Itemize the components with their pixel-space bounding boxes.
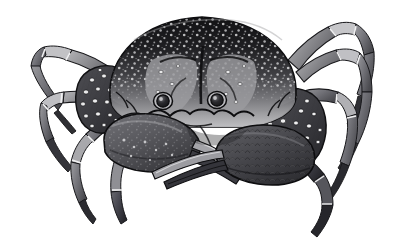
left-eye-highlight <box>159 97 163 101</box>
crab-illustration <box>0 0 409 248</box>
right-eye-highlight <box>213 96 217 100</box>
crab-illustration-figure <box>0 0 409 248</box>
left-eye-ball <box>157 95 169 107</box>
left-eye <box>154 93 173 110</box>
right-eye-ball <box>211 94 223 106</box>
right-eye <box>208 92 227 109</box>
